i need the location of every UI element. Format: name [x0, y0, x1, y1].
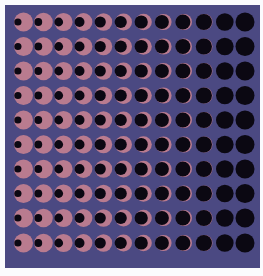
dark-circle — [236, 135, 255, 154]
circle-pair — [115, 210, 132, 227]
circle-pair — [75, 111, 93, 129]
circle-pair — [175, 63, 192, 79]
circle-pair — [135, 87, 152, 104]
dark-circle — [175, 64, 190, 79]
circle-row — [14, 62, 255, 81]
dark-circle — [75, 91, 85, 101]
circle-pair — [216, 209, 234, 227]
circle-pair — [95, 185, 113, 202]
circle-pair — [75, 62, 93, 80]
circle-pair — [196, 235, 213, 251]
circle-pair — [175, 235, 192, 251]
dark-circle — [34, 43, 42, 51]
circle-pair — [236, 13, 255, 32]
circle-row — [14, 13, 255, 32]
dark-circle — [115, 114, 127, 126]
dark-circle — [34, 165, 42, 173]
dark-circle — [175, 211, 190, 226]
circle-pair — [95, 13, 113, 30]
dark-circle — [196, 185, 212, 201]
circle-pair — [75, 160, 93, 178]
dark-circle — [115, 187, 127, 199]
dark-circle — [216, 13, 234, 31]
circle-pair — [75, 87, 93, 105]
dark-circle — [216, 185, 234, 203]
circle-pair — [34, 62, 53, 81]
circle-pair — [135, 136, 152, 153]
circle-pair — [115, 38, 132, 55]
dark-circle — [216, 87, 234, 105]
circle-pair — [155, 161, 172, 177]
dark-circle — [135, 64, 148, 77]
dark-circle — [196, 38, 212, 54]
dark-circle — [216, 111, 234, 129]
circle-pair — [155, 185, 172, 201]
circle-pair — [34, 13, 53, 32]
dark-circle — [155, 162, 169, 176]
dark-circle — [236, 62, 255, 81]
dark-circle — [236, 13, 255, 32]
dark-circle — [115, 40, 127, 52]
dark-circle — [54, 42, 63, 51]
circle-pair — [14, 135, 33, 154]
circle-pair — [175, 210, 192, 226]
dark-circle — [236, 160, 255, 179]
dark-circle — [216, 234, 234, 252]
circle-pair — [216, 38, 234, 56]
dark-circle — [155, 187, 169, 201]
dark-circle — [196, 210, 212, 226]
circle-pair — [196, 38, 213, 54]
circle-pair — [236, 160, 255, 179]
circle-pair — [216, 62, 234, 80]
circle-pair — [95, 87, 113, 104]
dark-circle — [135, 40, 148, 53]
dark-circle — [115, 237, 127, 249]
circle-row — [14, 184, 255, 203]
circle-pair — [115, 14, 132, 31]
dark-circle — [54, 18, 63, 27]
dark-circle — [75, 140, 85, 150]
dark-circle — [175, 162, 190, 177]
dark-circle — [155, 113, 169, 127]
circle-grid — [5, 5, 260, 268]
circle-pair — [14, 111, 33, 130]
circle-pair — [216, 13, 234, 31]
dark-circle — [14, 116, 21, 123]
dark-circle — [135, 211, 148, 224]
circle-pair — [75, 38, 93, 56]
dark-circle — [95, 90, 106, 101]
circle-pair — [135, 63, 152, 80]
dark-circle — [14, 214, 21, 221]
circle-pair — [135, 161, 152, 178]
circle-pair — [196, 136, 213, 152]
dark-circle — [34, 67, 42, 75]
dark-circle — [95, 163, 106, 174]
circle-pair — [155, 235, 172, 251]
dark-circle — [34, 190, 42, 198]
circle-pair — [14, 62, 33, 81]
dark-circle — [34, 239, 42, 247]
circle-pair — [34, 111, 53, 130]
circle-pair — [115, 136, 132, 153]
circle-pair — [175, 112, 192, 128]
dark-circle — [196, 235, 212, 251]
dark-circle — [54, 214, 63, 223]
circle-pair — [14, 209, 33, 228]
dark-circle — [155, 138, 169, 152]
circle-pair — [115, 185, 132, 202]
circle-pair — [155, 112, 172, 128]
dark-circle — [115, 16, 127, 28]
circle-pair — [54, 135, 72, 153]
circle-pair — [135, 14, 152, 31]
circle-pair — [115, 161, 132, 178]
circle-pair — [175, 39, 192, 55]
circle-pair — [155, 63, 172, 79]
dark-circle — [75, 213, 85, 223]
circle-pair — [34, 86, 53, 105]
circle-pair — [216, 185, 234, 203]
circle-pair — [34, 184, 53, 203]
dark-circle — [14, 43, 21, 50]
dark-circle — [196, 14, 212, 30]
circle-pair — [14, 160, 33, 179]
circle-pair — [34, 209, 53, 228]
